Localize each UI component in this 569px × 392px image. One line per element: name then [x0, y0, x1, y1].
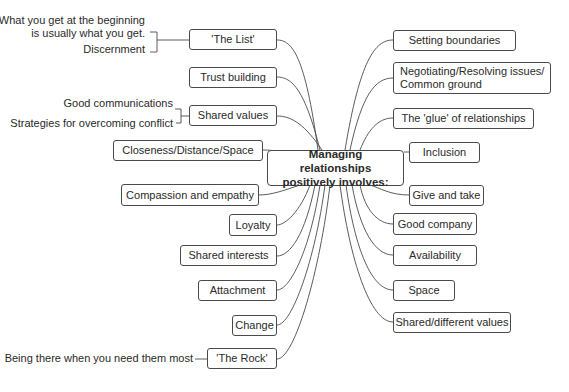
- node-loyalty[interactable]: Loyalty: [229, 214, 277, 236]
- node-label: Loyalty: [236, 219, 271, 232]
- node-label: The 'glue' of relationships: [401, 112, 525, 125]
- node-label: Trust building: [200, 71, 266, 84]
- node-label: Space: [408, 284, 439, 297]
- node-availability[interactable]: Availability: [393, 245, 477, 266]
- annotation-line: Good communications: [10, 97, 173, 110]
- annotation-line: is usually what you get.: [0, 27, 145, 40]
- annotation-line: Strategies for overcoming conflict: [10, 117, 173, 130]
- node-the-list[interactable]: 'The List': [189, 29, 277, 50]
- node-label: 'The List': [211, 33, 254, 46]
- annotation-the-list: What you get at the beginning is usually…: [0, 14, 145, 56]
- node-shared-interests[interactable]: Shared interests: [180, 245, 277, 266]
- node-change[interactable]: Change: [232, 315, 277, 336]
- annotation-line: What you get at the beginning: [0, 14, 145, 27]
- node-label: Shared/different values: [396, 316, 509, 329]
- node-label: Change: [235, 319, 274, 332]
- node-label: Inclusion: [423, 146, 466, 159]
- node-label: 'The Rock': [216, 352, 267, 365]
- node-shared-different-values[interactable]: Shared/different values: [393, 312, 511, 333]
- node-closeness-distance-space[interactable]: Closeness/Distance/Space: [113, 140, 263, 161]
- node-label: Compassion and empathy: [126, 189, 254, 202]
- annotation-line: Being there when you need them most: [5, 352, 193, 365]
- node-good-company[interactable]: Good company: [393, 213, 477, 235]
- central-topic[interactable]: Managing relationships positively involv…: [267, 150, 404, 186]
- node-label: Closeness/Distance/Space: [122, 144, 253, 157]
- node-the-rock[interactable]: 'The Rock': [207, 348, 277, 369]
- node-label: Shared interests: [188, 249, 268, 262]
- node-glue-of-relationships[interactable]: The 'glue' of relationships: [393, 108, 534, 129]
- node-label: Give and take: [413, 189, 481, 202]
- node-trust-building[interactable]: Trust building: [189, 67, 277, 88]
- node-compassion-and-empathy[interactable]: Compassion and empathy: [121, 184, 259, 206]
- node-shared-values[interactable]: Shared values: [189, 105, 277, 126]
- node-inclusion[interactable]: Inclusion: [409, 142, 480, 163]
- node-attachment[interactable]: Attachment: [198, 280, 277, 301]
- node-label: Negotiating/Resolving issues/ Common gro…: [400, 65, 545, 91]
- node-label: Attachment: [210, 284, 266, 297]
- node-setting-boundaries[interactable]: Setting boundaries: [393, 30, 516, 51]
- node-space[interactable]: Space: [393, 280, 455, 301]
- central-topic-line1: Managing relationships: [273, 147, 398, 175]
- node-label: Setting boundaries: [409, 34, 501, 47]
- node-label: Good company: [398, 218, 473, 231]
- node-label: Shared values: [198, 109, 268, 122]
- annotation-line: Discernment: [0, 43, 145, 56]
- mind-map: Managing relationships positively involv…: [0, 0, 569, 392]
- central-topic-line2: positively involves:: [282, 175, 388, 189]
- annotation-shared-values: Good communications Strategies for overc…: [10, 97, 173, 130]
- node-give-and-take[interactable]: Give and take: [409, 185, 484, 206]
- node-label: Availability: [409, 249, 461, 262]
- annotation-the-rock: Being there when you need them most: [5, 352, 193, 365]
- node-negotiating-resolving[interactable]: Negotiating/Resolving issues/ Common gro…: [393, 62, 551, 94]
